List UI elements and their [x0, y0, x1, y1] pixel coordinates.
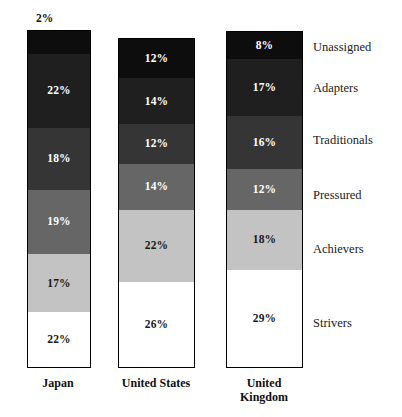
- value-label: 8%: [256, 40, 274, 52]
- value-label: 18%: [47, 153, 71, 165]
- segment-us-strivers: 26%: [119, 282, 194, 367]
- value-label: 12%: [145, 138, 169, 150]
- category-label-united-states: United States: [120, 377, 192, 391]
- value-label: 22%: [47, 85, 71, 97]
- segment-uk-pressured: 12%: [227, 169, 302, 209]
- segment-japan-strivers: 22%: [28, 312, 90, 367]
- value-label: 17%: [253, 82, 277, 94]
- bar-united-states: 12% 14% 12% 14% 22% 26%: [118, 38, 195, 368]
- segment-japan-unassigned: [28, 31, 90, 54]
- value-label: 14%: [145, 181, 169, 193]
- segment-uk-adapters: 17%: [227, 59, 302, 116]
- category-label-united-kingdom: United Kingdom: [228, 377, 300, 404]
- legend-item-unassigned: Unassigned: [313, 41, 371, 54]
- segment-uk-strivers: 29%: [227, 270, 302, 367]
- legend-item-pressured: Pressured: [313, 189, 362, 202]
- segment-us-achievers: 22%: [119, 210, 194, 282]
- value-label: 26%: [145, 319, 169, 331]
- segment-us-unassigned: 12%: [119, 39, 194, 78]
- value-label: 22%: [145, 240, 169, 252]
- stacked-bar-chart: 2% 22% 18% 19% 17% 22% Japan 12% 14% 12%: [0, 0, 402, 417]
- legend-item-adapters: Adapters: [313, 82, 358, 95]
- segment-uk-traditionals: 16%: [227, 116, 302, 170]
- segment-japan-traditionals: 18%: [28, 128, 90, 189]
- value-label: 12%: [253, 184, 277, 196]
- legend-item-achievers: Achievers: [313, 243, 364, 256]
- category-label-japan: Japan: [18, 377, 98, 391]
- value-label: 22%: [47, 334, 71, 346]
- value-label: 18%: [253, 234, 277, 246]
- segment-japan-achievers: 17%: [28, 254, 90, 312]
- value-label: 29%: [253, 313, 277, 325]
- segment-uk-achievers: 18%: [227, 210, 302, 270]
- segment-us-pressured: 14%: [119, 164, 194, 210]
- value-label: 12%: [145, 53, 169, 65]
- segment-japan-adapters: 22%: [28, 54, 90, 129]
- value-label: 17%: [47, 278, 71, 290]
- bar-united-kingdom: 8% 17% 16% 12% 18% 29%: [226, 31, 303, 368]
- legend-item-traditionals: Traditionals: [313, 134, 373, 147]
- segment-us-traditionals: 12%: [119, 124, 194, 163]
- value-label: 19%: [47, 216, 71, 228]
- segment-us-adapters: 14%: [119, 78, 194, 124]
- bar-japan: 22% 18% 19% 17% 22%: [27, 30, 91, 368]
- value-label: 14%: [145, 96, 169, 108]
- value-label: 16%: [253, 137, 277, 149]
- legend-item-strivers: Strivers: [313, 317, 352, 330]
- segment-uk-unassigned: 8%: [227, 32, 302, 59]
- segment-japan-pressured: 19%: [28, 190, 90, 255]
- external-value-label-japan-unassigned: 2%: [36, 13, 53, 25]
